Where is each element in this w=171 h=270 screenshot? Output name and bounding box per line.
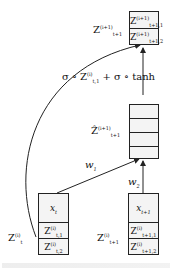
hidden-node bbox=[129, 104, 159, 159]
weight-w1: w1 bbox=[85, 160, 97, 172]
w1-edge bbox=[57, 159, 139, 193]
right-cell-1: Z(i)t+1,1 bbox=[128, 222, 159, 239]
left-input-cell: xt bbox=[38, 193, 69, 223]
left-cell-1: Z(i)t,1 bbox=[38, 222, 69, 239]
right-cell-2: Z(i)t+1,2 bbox=[128, 238, 159, 255]
top-cell-1: Z(i+1)t+1,1 bbox=[129, 11, 159, 29]
right-input-cell: xt+1 bbox=[128, 193, 159, 223]
hidden-cell-1 bbox=[130, 105, 158, 119]
hidden-cell-3 bbox=[130, 133, 158, 147]
hidden-cell-2 bbox=[130, 119, 158, 133]
gate-formula: σ ∘ Z(i)t,1 + σ ∘ tanh bbox=[62, 72, 155, 84]
figure-caption-faint bbox=[2, 263, 170, 268]
left-node-label: Z(i)t bbox=[8, 233, 22, 245]
weight-w2: w2 bbox=[128, 177, 140, 189]
top-node-label: Z(i+1)t+1 bbox=[93, 25, 122, 37]
left-cell-2: Z(i)t,2 bbox=[38, 238, 69, 255]
top-cell-2: Z(i+1)t+1,2 bbox=[129, 28, 159, 45]
right-node-label: Z(i)t+1 bbox=[97, 233, 119, 245]
hidden-node-label: Ẑ(i+1)t+1 bbox=[91, 126, 120, 138]
hidden-cell-4 bbox=[130, 147, 158, 160]
